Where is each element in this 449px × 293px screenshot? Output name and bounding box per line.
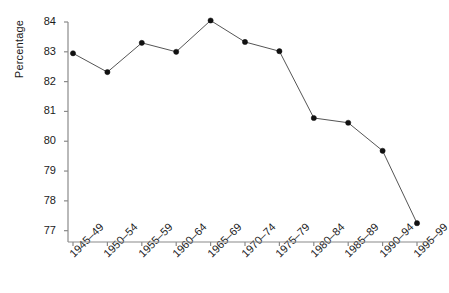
data-series-line <box>73 21 417 224</box>
data-point-marker <box>346 120 351 125</box>
data-point-marker <box>70 51 75 56</box>
line-chart: Percentage 7778798081828384 1945–491950–… <box>0 0 449 293</box>
data-point-marker <box>139 40 144 45</box>
data-point-marker <box>208 18 213 23</box>
plot-area <box>0 0 449 293</box>
axis-lines <box>64 22 431 246</box>
data-point-marker <box>242 39 247 44</box>
data-point-marker <box>277 49 282 54</box>
data-point-marker <box>174 49 179 54</box>
data-point-marker <box>105 69 110 74</box>
data-point-marker <box>414 221 419 226</box>
data-point-marker <box>380 148 385 153</box>
series-line-percentage <box>73 21 417 224</box>
data-point-markers <box>70 18 419 226</box>
data-point-marker <box>311 115 316 120</box>
